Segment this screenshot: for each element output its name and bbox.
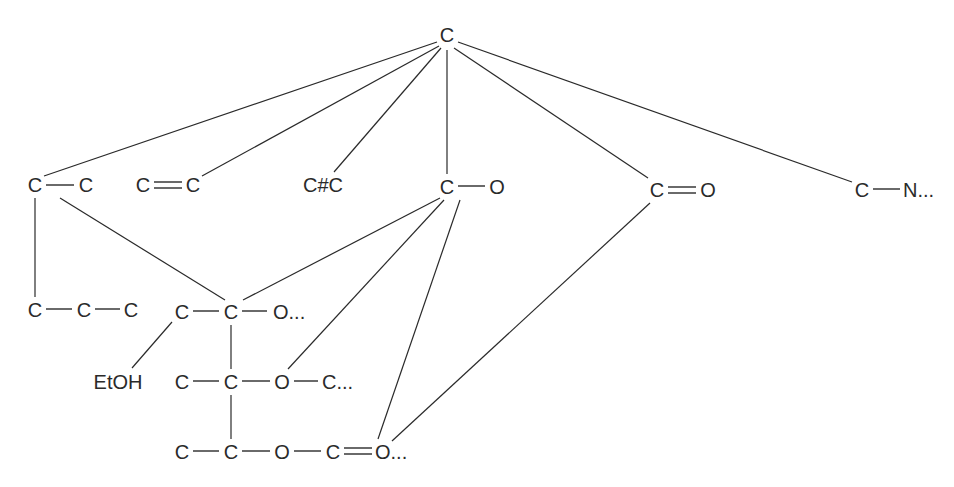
root-edges	[44, 42, 852, 182]
edge-co-cco	[243, 198, 440, 300]
atom: O...	[273, 301, 305, 323]
atom: O	[489, 176, 505, 198]
node-c-c-o: C C O...	[175, 301, 305, 323]
atom: C	[77, 299, 91, 321]
edge-root-c2c	[202, 46, 439, 176]
atom-label: EtOH	[94, 371, 143, 393]
atom: C	[224, 301, 238, 323]
cc-edges	[35, 198, 225, 300]
atom: C	[326, 441, 340, 463]
node-c-c-o-c-double-o: C C O C O...	[175, 441, 407, 463]
node-c-triple-c: C#C	[303, 174, 343, 196]
atom: C	[186, 174, 200, 196]
atom: C	[224, 441, 238, 463]
node-root: C	[440, 24, 454, 46]
node-c-double-o: C O	[650, 179, 716, 201]
fragment-tree-diagram: C C C C C C#C C O C O C N... C C	[0, 0, 954, 487]
atom: C	[124, 299, 138, 321]
atom: C	[650, 179, 664, 201]
node-c-o: C O	[440, 176, 505, 198]
atom: O	[700, 179, 716, 201]
edge-root-c2o	[454, 48, 648, 178]
atom: O	[274, 441, 290, 463]
atom: C	[440, 176, 454, 198]
atom: C	[175, 371, 189, 393]
atom: C	[855, 179, 869, 201]
node-c-double-c: C C	[136, 174, 200, 196]
atom: C	[175, 441, 189, 463]
node-etoh: EtOH	[94, 371, 143, 393]
atom: C	[79, 174, 93, 196]
atom: C	[28, 174, 42, 196]
node-c-c-c: C C C	[28, 299, 138, 321]
edge-root-cc	[44, 42, 437, 176]
edge-c2o-ccoco	[392, 203, 650, 441]
edge-cco-etoh	[132, 322, 172, 368]
edge-co-ccoc	[288, 200, 444, 369]
edge-cc-cco	[60, 198, 225, 300]
node-c-c: C C	[28, 174, 93, 196]
atom: C	[136, 174, 150, 196]
atom: C	[28, 299, 42, 321]
atom-root-c: C	[440, 24, 454, 46]
atom: C	[224, 371, 238, 393]
atom: N...	[903, 179, 934, 201]
edge-root-c3c	[334, 48, 441, 172]
edge-co-ccoco	[378, 200, 460, 439]
atom: O...	[375, 441, 407, 463]
node-c-n: C N...	[855, 179, 934, 201]
atom: C...	[322, 371, 353, 393]
atom: O	[274, 371, 290, 393]
edge-root-cn	[458, 42, 852, 182]
atom: C	[175, 301, 189, 323]
node-c-c-o-c: C C O C...	[175, 371, 353, 393]
atom-label: C#C	[303, 174, 343, 196]
